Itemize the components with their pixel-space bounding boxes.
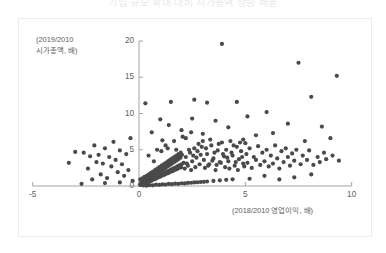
data-point [190, 159, 194, 163]
data-point [322, 151, 326, 155]
data-point [320, 124, 324, 128]
data-point [316, 155, 320, 159]
data-point [94, 160, 98, 164]
data-point [275, 156, 279, 160]
data-point [92, 143, 96, 147]
data-point [204, 146, 208, 150]
data-point [292, 159, 296, 163]
data-point [288, 164, 292, 168]
data-point [218, 178, 222, 182]
x-tick-label-10: 10 [343, 190, 361, 199]
data-point [258, 163, 262, 167]
data-point [243, 141, 247, 145]
data-point [198, 162, 202, 166]
data-point [150, 130, 154, 134]
data-point [220, 42, 224, 46]
data-point [189, 168, 193, 172]
data-point [226, 159, 230, 163]
data-point [152, 159, 156, 163]
data-point [155, 148, 159, 152]
data-point [301, 153, 305, 157]
data-point [221, 152, 225, 156]
y-axis-label: (2019/2010 시가총액, 배) [36, 35, 78, 56]
data-point [196, 142, 200, 146]
data-point [190, 116, 194, 120]
data-point [213, 119, 217, 123]
data-point [107, 155, 111, 159]
data-point [232, 143, 236, 147]
data-point [158, 117, 162, 121]
data-point [238, 140, 242, 144]
data-point [318, 160, 322, 164]
data-point [226, 125, 230, 129]
data-point [202, 158, 206, 162]
data-point [126, 168, 130, 172]
data-point [79, 182, 83, 186]
x-axis-label: (2018/2010 영업이익, 배) [232, 206, 313, 217]
x-tick-label-5: 5 [236, 190, 254, 199]
data-point [307, 148, 311, 152]
data-point [202, 180, 206, 184]
data-point [192, 146, 196, 150]
data-point [267, 164, 271, 168]
data-point [189, 130, 193, 134]
data-point [193, 165, 197, 169]
data-point [228, 139, 232, 143]
data-point [265, 110, 269, 114]
data-point [225, 156, 229, 160]
data-point [179, 128, 183, 132]
data-point [109, 164, 113, 168]
data-point [128, 136, 132, 140]
data-point [208, 138, 212, 142]
data-point [273, 143, 277, 147]
data-point [265, 148, 269, 152]
data-point [206, 164, 210, 168]
data-point [163, 182, 167, 186]
data-point [211, 179, 215, 183]
data-point [101, 161, 105, 165]
data-point [286, 155, 290, 159]
data-point [189, 181, 193, 185]
y-tick-label-20: 20 [115, 36, 134, 45]
tick-marks [33, 41, 352, 186]
data-point [254, 133, 258, 137]
data-point [143, 101, 147, 105]
data-point [245, 161, 249, 165]
data-point [309, 172, 313, 176]
data-point [254, 158, 258, 162]
data-point [144, 184, 148, 188]
data-point [309, 95, 313, 99]
data-point [105, 176, 109, 180]
data-point [111, 140, 115, 144]
data-point [99, 172, 103, 176]
data-point [114, 158, 118, 162]
data-point [183, 181, 187, 185]
data-point [146, 153, 150, 157]
data-point [337, 159, 341, 163]
data-point [157, 183, 161, 187]
data-point [179, 165, 183, 169]
data-point [205, 101, 209, 105]
data-point [260, 151, 264, 155]
data-point [292, 175, 296, 179]
data-point [219, 161, 223, 165]
data-point [224, 148, 228, 152]
data-point [176, 182, 180, 186]
data-point [82, 151, 86, 155]
data-point [199, 153, 203, 157]
data-point [174, 148, 178, 152]
data-point [185, 161, 189, 165]
data-point [201, 139, 205, 143]
data-point [230, 177, 234, 181]
data-point [241, 138, 245, 142]
data-point [195, 180, 199, 184]
y-tick-label-5: 5 [115, 145, 134, 154]
data-point [229, 151, 233, 155]
data-point [324, 157, 328, 161]
data-point [335, 74, 339, 78]
data-point [242, 164, 246, 168]
data-point [223, 165, 227, 169]
data-point [179, 151, 183, 155]
data-point [305, 158, 309, 162]
data-point [277, 177, 281, 181]
